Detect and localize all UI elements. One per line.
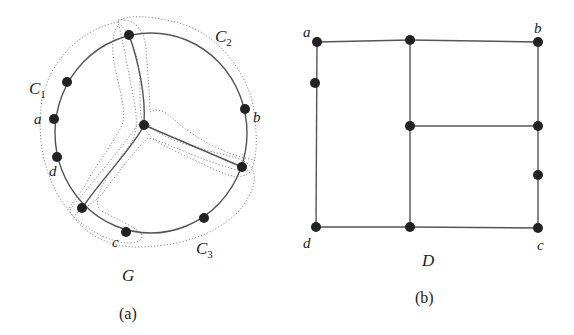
- edge-bot-mid-c: [410, 227, 538, 228]
- vertex-mid-mid: [405, 121, 415, 131]
- vertex-bottom-left: [77, 203, 87, 213]
- vertex-b: [240, 104, 250, 114]
- vertex-bottom-right: [237, 162, 247, 172]
- spoke-edge-top: [129, 35, 144, 125]
- vertex-d: [311, 222, 321, 232]
- outer-cycle-edge: [55, 33, 247, 233]
- vertex-top: [124, 30, 134, 40]
- caption-b: (b): [415, 289, 434, 307]
- vertex-c3: [199, 213, 209, 223]
- vertex-left-mid: [310, 78, 320, 88]
- label-c1: C1: [29, 79, 46, 100]
- figure-canvas: C1 C2 C3 a b c d G (a): [0, 0, 574, 335]
- label-vertex-a: a: [34, 111, 42, 127]
- vertex-top-mid: [405, 35, 415, 45]
- figure-a-graph-g: C1 C2 C3 a b c d G (a): [29, 17, 261, 323]
- vertex-set-g: [49, 30, 250, 237]
- label-vertex-c: c: [112, 234, 119, 250]
- vertex-c: [121, 227, 131, 237]
- vertex-bot-mid: [405, 222, 415, 232]
- vertex-right-mid: [533, 121, 543, 131]
- vertex-c1: [62, 77, 72, 87]
- vertex-set-d: [310, 35, 543, 233]
- graph-label-d: D: [421, 251, 435, 270]
- graph-label-g: G: [122, 266, 134, 285]
- label-c2: C2: [215, 27, 232, 48]
- vertex-a: [312, 37, 322, 47]
- label-vertex-b: b: [253, 109, 261, 125]
- label-vertex-c: c: [537, 237, 544, 253]
- cycle-c1-inner-contour: [68, 26, 124, 210]
- label-c3: C3: [196, 239, 213, 260]
- vertex-right-low: [533, 170, 543, 180]
- label-vertex-d: d: [49, 163, 57, 179]
- label-vertex-b: b: [534, 20, 542, 36]
- edge-a-top-mid: [317, 40, 410, 42]
- vertex-d: [52, 152, 62, 162]
- edge-a-d: [316, 42, 317, 227]
- vertex-center: [139, 120, 149, 130]
- spoke-edge-bottom-left: [82, 125, 144, 208]
- cycle-c3-inner-contour: [75, 138, 248, 215]
- label-vertex-a: a: [303, 24, 311, 40]
- edge-top-mid-b: [410, 40, 538, 42]
- cycle-c3-contour: [70, 122, 254, 247]
- vertex-b: [533, 37, 543, 47]
- spoke-edge-right: [144, 125, 242, 167]
- vertex-a: [49, 114, 59, 124]
- figure-b-graph-d: a b c d D (b): [303, 20, 544, 307]
- vertex-c: [533, 223, 543, 233]
- caption-a: (a): [119, 305, 137, 323]
- label-vertex-d: d: [303, 235, 311, 251]
